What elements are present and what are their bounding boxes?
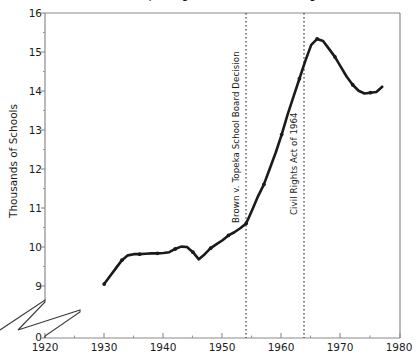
data-point <box>156 251 160 255</box>
data-point <box>280 133 284 137</box>
data-point <box>138 252 142 256</box>
data-series-markers <box>102 37 372 286</box>
data-series-line <box>104 39 382 284</box>
data-point <box>244 222 248 226</box>
data-point <box>333 55 337 59</box>
data-point <box>173 247 177 251</box>
data-point <box>262 183 266 187</box>
data-point <box>227 234 231 238</box>
data-point <box>102 282 106 286</box>
data-point <box>351 83 355 87</box>
data-point <box>120 258 124 262</box>
x-ticks <box>45 333 400 338</box>
plot-frame <box>45 13 400 338</box>
data-point <box>209 246 213 250</box>
y-axis-break-zigzag <box>0 300 80 338</box>
data-point <box>191 250 195 254</box>
data-point <box>315 37 319 41</box>
data-point <box>369 91 373 95</box>
data-point <box>298 77 302 81</box>
